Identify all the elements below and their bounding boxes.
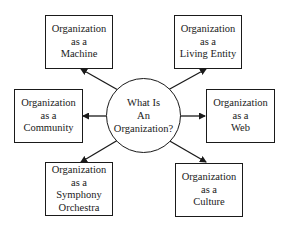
node-line: Organization: [21, 97, 76, 110]
node-symphony-orchestra: Organization as a Symphony Orchestra: [45, 162, 113, 216]
arrow-to-symphony-orchestra: [81, 140, 118, 162]
node-line: as a: [71, 36, 87, 49]
node-line: Organization: [181, 23, 236, 36]
node-line: Culture: [193, 196, 225, 209]
node-living-entity: Organization as a Living Entity: [174, 15, 242, 69]
node-line: Organization: [182, 171, 237, 184]
node-line: as a: [201, 184, 217, 197]
node-line: Web: [231, 122, 250, 135]
node-line: as a: [71, 177, 87, 190]
node-line: Living Entity: [180, 48, 236, 61]
node-line: Organization: [213, 97, 268, 110]
arrow-to-machine: [81, 69, 118, 90]
node-line: as a: [40, 110, 56, 123]
arrow-to-living-entity: [168, 69, 206, 90]
node-machine: Organization as a Machine: [45, 15, 113, 69]
center-line: What Is: [127, 96, 160, 109]
center-line: Organization?: [114, 122, 173, 135]
node-line: as a: [200, 36, 216, 49]
node-line: as a: [232, 110, 248, 123]
center-line: An: [137, 109, 150, 122]
node-line: Organization: [52, 164, 107, 177]
node-culture: Organization as a Culture: [175, 163, 243, 217]
node-line: Orchestra: [59, 202, 100, 215]
node-line: Organization: [52, 23, 107, 36]
arrow-to-culture: [168, 140, 206, 162]
node-web: Organization as a Web: [206, 89, 275, 143]
node-line: Machine: [61, 48, 98, 61]
node-community: Organization as a Community: [14, 89, 83, 143]
node-line: Community: [23, 122, 73, 135]
center-node-what-is-an-organization: What Is An Organization?: [106, 78, 181, 153]
node-line: Symphony: [56, 189, 102, 202]
